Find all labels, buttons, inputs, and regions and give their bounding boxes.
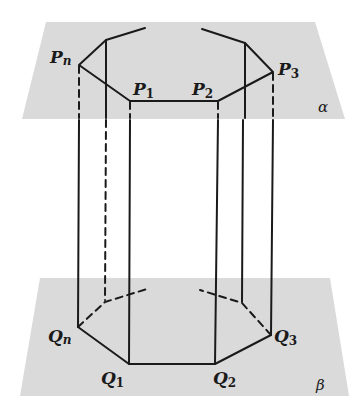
label-alpha: α [318, 98, 328, 116]
lateral-edge-back-right [242, 120, 243, 302]
lateral-edge-1 [129, 120, 130, 364]
lateral-edge-back-left [105, 120, 106, 300]
prism-diagram: Pn P1 P2 P3 α Qn Q1 Q2 Q3 β [0, 0, 355, 414]
lateral-edge-n [78, 120, 79, 327]
diagram-canvas: Pn P1 P2 P3 α Qn Q1 Q2 Q3 β [0, 0, 355, 414]
label-beta: β [315, 376, 325, 394]
